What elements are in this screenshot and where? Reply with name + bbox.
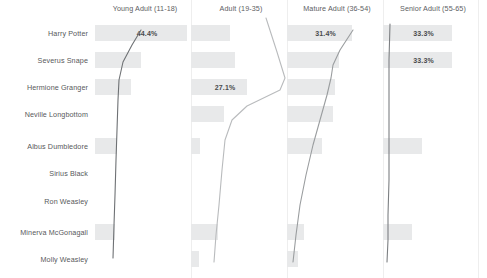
- small-multiples-chart: Young Adult (11-18) Adult (19-35) Mature…: [0, 0, 487, 278]
- panel-divider-4: [478, 0, 479, 278]
- row-label-albus-dumbledore: Albus Dumbledore: [27, 142, 88, 151]
- bar[interactable]: [95, 79, 131, 95]
- bar[interactable]: [191, 224, 218, 240]
- bar[interactable]: [287, 106, 333, 122]
- row-label-neville-longbottom: Neville Longbottom: [25, 110, 88, 119]
- bar-value-label: 31.4%: [315, 30, 336, 37]
- row-label-severus-snape: Severus Snape: [38, 56, 88, 65]
- bar[interactable]: [287, 79, 335, 95]
- bar[interactable]: [191, 106, 224, 122]
- column-header-adult: Adult (19-35): [220, 4, 263, 13]
- column-header-mature-adult: Mature Adult (36-54): [303, 4, 371, 13]
- row-label-harry-potter: Harry Potter: [48, 29, 88, 38]
- row-label-hermione-granger: Hermione Granger: [27, 83, 88, 92]
- bar[interactable]: [287, 224, 304, 240]
- bar[interactable]: [287, 138, 322, 154]
- column-header-senior-adult: Senior Adult (55-65): [400, 4, 466, 13]
- bar[interactable]: [383, 224, 412, 240]
- bar[interactable]: [191, 138, 200, 154]
- bar[interactable]: [95, 224, 115, 240]
- row-label-molly-weasley: Molly Weasley: [41, 255, 89, 264]
- bar[interactable]: [95, 138, 117, 154]
- row-label-sirius-black: Sirius Black: [49, 169, 88, 178]
- bar-value-label: 33.3%: [413, 57, 434, 64]
- bar[interactable]: [287, 52, 339, 68]
- row-label-minerva-mcgonagall: Minerva McGonagall: [20, 228, 88, 237]
- bar[interactable]: [191, 251, 199, 267]
- row-label-ron-weasley: Ron Weasley: [44, 197, 88, 206]
- bar[interactable]: [191, 25, 230, 41]
- bar-value-label: 33.3%: [413, 30, 434, 37]
- bar[interactable]: [383, 138, 422, 154]
- bar-value-label: 27.1%: [215, 84, 236, 91]
- bar[interactable]: [191, 52, 235, 68]
- bar-value-label: 44.4%: [137, 30, 158, 37]
- bar[interactable]: [287, 251, 298, 267]
- bar[interactable]: [95, 52, 141, 68]
- column-header-young-adult: Young Adult (11-18): [113, 4, 178, 13]
